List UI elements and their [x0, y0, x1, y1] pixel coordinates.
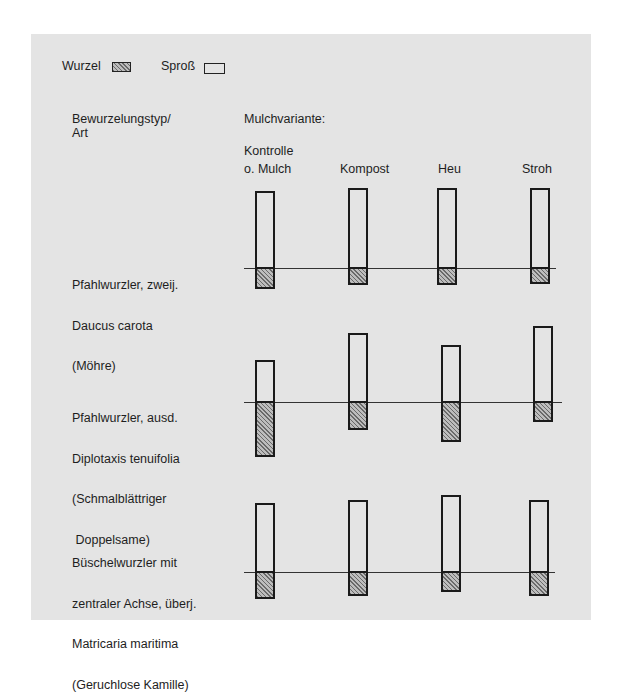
root-bar: [348, 403, 368, 430]
root-bar: [255, 403, 275, 457]
shoot-bar: [348, 188, 368, 269]
baseline: [244, 402, 562, 403]
row-header-line1: Bewurzelungstyp/: [72, 113, 171, 126]
shoot-bar: [441, 495, 461, 573]
shoot-bar: [437, 188, 457, 269]
row-label-line: (Schmalblättriger: [72, 493, 180, 507]
column-label-kontrolle-line1: Kontrolle: [244, 145, 293, 158]
column-header: Mulchvariante:: [244, 113, 325, 126]
root-bar: [529, 573, 549, 596]
shoot-bar: [529, 500, 549, 573]
row-label-line: (Geruchlose Kamille): [72, 679, 196, 693]
shoot-bar: [533, 326, 553, 403]
shoot-bar: [255, 191, 275, 269]
shoot-bar: [255, 503, 275, 573]
shoot-bar: [348, 333, 368, 403]
baseline: [244, 268, 556, 269]
root-bar: [530, 269, 550, 284]
legend-shoot-label: Sproß: [161, 60, 195, 73]
row-label-line: Pfahlwurzler, zweij.: [72, 279, 178, 293]
row-label-line: Büschelwurzler mit: [72, 557, 196, 571]
shoot-bar: [255, 360, 275, 403]
row-header-line2: Art: [72, 127, 88, 140]
row-label-line: Daucus carota: [72, 320, 178, 334]
baseline: [244, 572, 555, 573]
legend-root-swatch: [112, 62, 131, 72]
root-bar: [255, 573, 275, 599]
shoot-bar: [348, 500, 368, 573]
root-bar: [348, 573, 368, 596]
row-label-daucus: Pfahlwurzler, zweij. Daucus carota (Möhr…: [72, 252, 178, 387]
legend-shoot-swatch: [204, 63, 225, 74]
row-label-line: Diplotaxis tenuifolia: [72, 453, 180, 467]
root-bar: [348, 269, 368, 285]
root-bar: [437, 269, 457, 285]
column-label-stroh: Stroh: [522, 163, 552, 176]
shoot-bar: [441, 345, 461, 403]
root-bar: [533, 403, 553, 422]
row-label-line: (Möhre): [72, 360, 178, 374]
root-bar: [441, 573, 461, 592]
legend-root-label: Wurzel: [62, 60, 101, 73]
column-label-heu: Heu: [438, 163, 461, 176]
row-label-line: Matricaria maritima: [72, 638, 196, 652]
root-bar: [255, 269, 275, 289]
row-label-line: Pfahlwurzler, ausd.: [72, 412, 180, 426]
shoot-bar: [530, 188, 550, 269]
column-label-kompost: Kompost: [340, 163, 389, 176]
row-label-matricaria: Büschelwurzler mit zentraler Achse, über…: [72, 530, 196, 696]
column-label-kontrolle-line2: o. Mulch: [244, 163, 291, 176]
root-bar: [441, 403, 461, 442]
row-label-line: zentraler Achse, überj.: [72, 598, 196, 612]
